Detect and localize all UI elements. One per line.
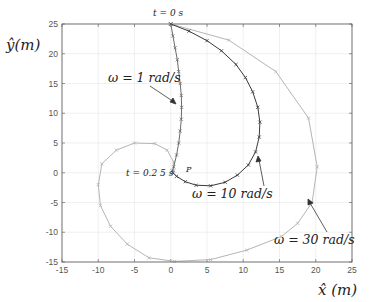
arrow-omega-1 [150,86,174,102]
x-marker-icon [247,163,250,166]
x-marker-icon [166,149,169,152]
trajectory-chart: -15-10-50510152025-15-10-50510152025 ŷ(m… [0,0,375,302]
x-marker-icon [296,222,299,225]
y-tick-label: 0 [53,168,58,178]
arrowhead-icon [256,156,261,162]
x-tick-label: 5 [205,265,210,275]
x-tick-label: -10 [92,265,105,275]
y-axis-label: ŷ(m) [5,36,41,54]
x-axis-label: x̂ (m) [318,281,357,299]
y-tick-label: 25 [49,19,59,29]
x-marker-icon [220,49,223,52]
x-marker-icon [234,63,237,66]
x-tick-label: -5 [131,265,139,275]
x-marker-icon [126,243,129,246]
y-tick-label: 15 [49,79,59,89]
label-omega-10: ω = 10 rad/s [192,186,273,201]
annotation-p: P [185,165,192,174]
y-tick-label: 5 [53,138,58,148]
label-omega-30: ω = 30 rad/s [274,232,355,247]
arrow-omega-30 [310,203,327,232]
y-tick-label: -15 [46,257,59,267]
label-omega-1: ω = 1 rad/s [108,70,181,85]
annotation-arrows [150,86,327,232]
x-marker-icon [175,175,178,178]
y-tick-label: -5 [50,198,58,208]
annotation-t0: t = 0 s [153,8,183,18]
x-tick-label: 0 [168,265,173,275]
x-tick-label: 20 [311,265,321,275]
x-tick-label: 15 [275,265,285,275]
x-tick-label: 25 [347,265,357,275]
y-tick-label: 20 [49,49,59,59]
x-marker-icon [244,76,247,79]
series-line [169,22,183,172]
series-line [169,22,261,187]
x-tick-label: 10 [239,265,249,275]
annotation-t025: t = 0.2 5 s [126,168,174,178]
x-marker-icon [274,70,277,73]
y-tick-label: 10 [49,108,59,118]
y-tick-label: -10 [46,227,59,237]
grid-lines [62,24,352,262]
x-marker-icon [236,174,239,177]
